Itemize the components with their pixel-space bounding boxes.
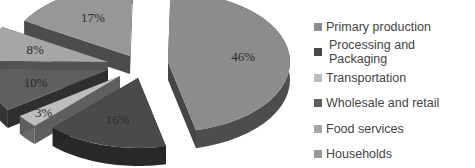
- legend-item-households: Households: [314, 142, 475, 168]
- pie-slice-primary-production: 46%: [168, 0, 290, 148]
- slice-label: 17%: [81, 10, 105, 25]
- slice-label: 3%: [35, 105, 53, 120]
- legend-swatch: [314, 99, 322, 107]
- legend-swatch: [314, 48, 322, 56]
- legend-label: Wholesale and retail: [326, 96, 439, 110]
- slice-label: 46%: [231, 49, 255, 64]
- legend-swatch: [314, 74, 322, 82]
- legend-label: Households: [326, 147, 392, 161]
- legend-swatch: [314, 150, 322, 158]
- pie-chart: 17%8%46%10%3%16%: [0, 0, 300, 167]
- slice-label: 16%: [106, 112, 130, 127]
- legend: Primary production Processing and Packag…: [314, 14, 475, 167]
- slice-label: 8%: [26, 42, 44, 57]
- legend-swatch: [314, 125, 322, 133]
- slice-label: 10%: [24, 75, 48, 90]
- legend-item-transportation: Transportation: [314, 65, 475, 91]
- legend-item-food-services: Food services: [314, 116, 475, 142]
- legend-item-primary-production: Primary production: [314, 14, 475, 40]
- legend-item-wholesale-retail: Wholesale and retail: [314, 91, 475, 117]
- legend-label: Food services: [326, 122, 404, 136]
- legend-label: Processing and Packaging: [329, 38, 475, 66]
- legend-label: Transportation: [326, 71, 406, 85]
- legend-swatch: [314, 23, 322, 31]
- legend-item-processing-packaging: Processing and Packaging: [314, 40, 475, 66]
- legend-label: Primary production: [326, 20, 431, 34]
